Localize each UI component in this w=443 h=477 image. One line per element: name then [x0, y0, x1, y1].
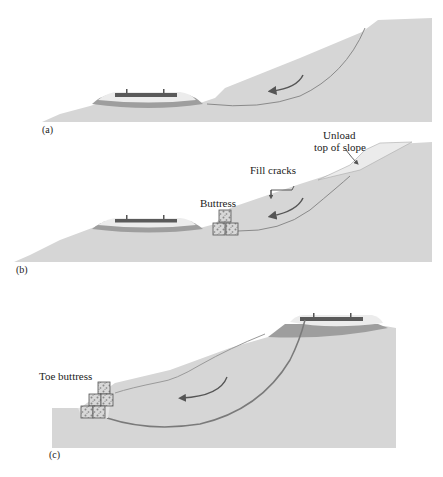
buttress-label: Buttress [200, 197, 236, 209]
tie-rail-a [115, 93, 177, 97]
toe-buttress-label: Toe buttress [39, 370, 92, 382]
buttress-block [213, 223, 225, 235]
tie-rail-b [115, 219, 177, 223]
unload-label-line2: top of slope [314, 141, 366, 153]
buttress-block [226, 223, 238, 235]
toe-buttress-block [81, 406, 93, 418]
panel-a [42, 18, 432, 122]
toe-buttress-block [98, 382, 110, 394]
slope-stabilization-diagram [0, 0, 443, 477]
toe-buttress-block [101, 394, 113, 406]
tie-rail-c [300, 317, 363, 321]
toe-buttress-block [93, 406, 105, 418]
panel-label-c: (c) [49, 449, 60, 460]
toe-buttress-block [89, 394, 101, 406]
panel-label-a: (a) [42, 124, 53, 135]
fill-cracks-label: Fill cracks [250, 164, 296, 176]
panel-c [52, 313, 396, 448]
panel-label-b: (b) [16, 264, 28, 275]
buttress-block [219, 210, 231, 222]
unload-label-line1: Unload [323, 129, 355, 141]
ground-a [42, 18, 432, 122]
